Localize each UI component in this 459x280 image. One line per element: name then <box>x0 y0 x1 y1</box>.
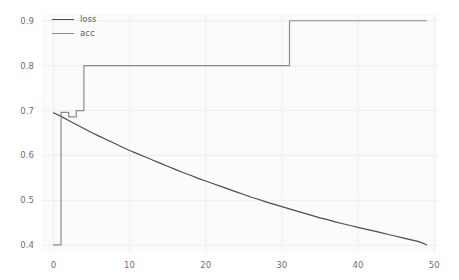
legend-item-label: loss <box>80 14 96 25</box>
x-tick-label: 40 <box>353 260 364 270</box>
legend-item-label: acc <box>80 28 95 39</box>
x-tick-label: 20 <box>200 260 211 270</box>
series-line-acc <box>53 21 426 245</box>
chart-legend: lossacc <box>48 12 100 41</box>
y-tick-label: 0.5 <box>8 195 34 205</box>
line-swatch-icon <box>52 19 74 20</box>
y-tick-label: 0.8 <box>8 61 34 71</box>
y-tick-label: 0.4 <box>8 240 34 250</box>
y-tick-label: 0.6 <box>8 150 34 160</box>
series-paths <box>53 21 426 245</box>
legend-item-loss[interactable]: loss <box>52 14 96 25</box>
x-tick-label: 10 <box>124 260 135 270</box>
x-tick-label: 0 <box>51 260 57 270</box>
y-tick-label: 0.7 <box>8 106 34 116</box>
plot-canvas <box>0 0 459 280</box>
series-line-loss <box>53 113 426 245</box>
x-tick-label: 50 <box>429 260 440 270</box>
gridlines <box>42 14 438 252</box>
chart-figure: 0.90.80.70.60.50.4 01020304050 lossacc <box>0 0 459 280</box>
x-tick-label: 30 <box>276 260 287 270</box>
legend-item-acc[interactable]: acc <box>52 28 96 39</box>
y-tick-label: 0.9 <box>8 16 34 26</box>
line-swatch-icon <box>52 33 74 34</box>
